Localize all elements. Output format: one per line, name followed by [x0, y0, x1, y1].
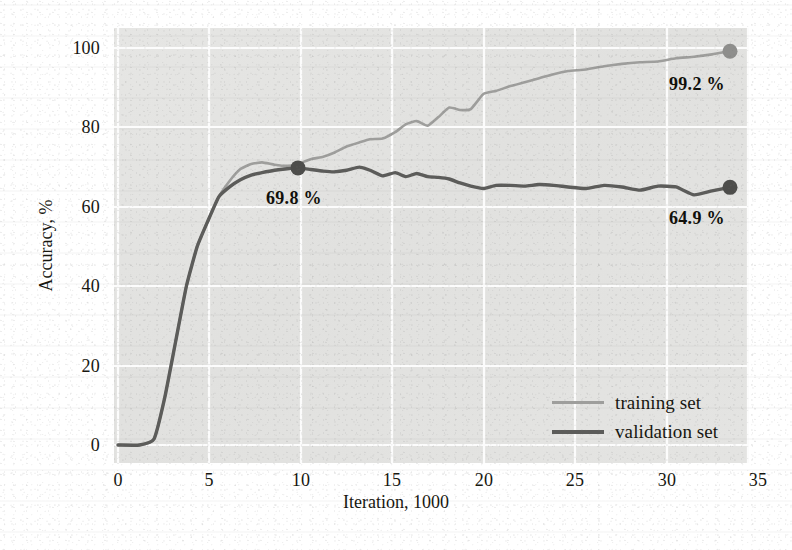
accuracy-vs-iteration-chart: 100 80 60 40 20 0 0 5 10 15 20 25 30 35 … — [0, 0, 792, 550]
y-tick-label-100: 100 — [44, 38, 100, 59]
legend-label-validation-set: validation set — [615, 421, 718, 443]
x-tick-label-30: 30 — [637, 470, 697, 491]
marker-validation-end — [723, 180, 738, 195]
legend-swatch-validation-set — [552, 430, 604, 434]
x-tick-label-0: 0 — [88, 470, 148, 491]
marker-validation-mid — [291, 160, 306, 175]
annotation-validation-final-value: 64.9 % — [669, 208, 725, 229]
legend-label-training-set: training set — [615, 392, 701, 414]
annotation-training-final-value: 99.2 % — [669, 74, 725, 95]
x-tick-label-20: 20 — [454, 470, 514, 491]
x-axis-title: Iteration, 1000 — [0, 492, 792, 513]
x-tick-label-10: 10 — [271, 470, 331, 491]
legend-item-validation-set: validation set — [552, 417, 762, 446]
x-tick-label-35: 35 — [728, 470, 788, 491]
x-tick-label-5: 5 — [179, 470, 239, 491]
annotation-validation-mid-value: 69.8 % — [266, 188, 322, 209]
y-tick-label-0: 0 — [44, 435, 100, 456]
y-tick-label-20: 20 — [44, 356, 100, 377]
y-axis-title: Accuracy, % — [36, 166, 57, 326]
marker-training-end — [723, 44, 738, 59]
x-tick-label-25: 25 — [545, 470, 605, 491]
y-tick-label-80: 80 — [44, 117, 100, 138]
legend-item-training-set: training set — [552, 388, 762, 417]
legend: training set validation set — [552, 388, 762, 446]
legend-swatch-training-set — [552, 401, 604, 404]
x-tick-label-15: 15 — [362, 470, 422, 491]
